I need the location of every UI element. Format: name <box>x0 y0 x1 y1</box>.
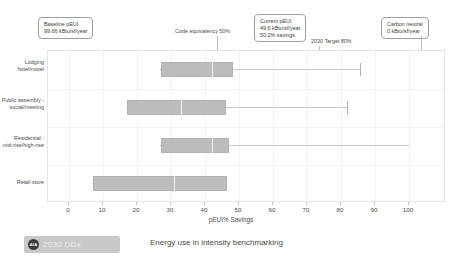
category-label-lodging: Lodging hotel/motel <box>0 59 44 73</box>
xtick-70 <box>306 202 307 205</box>
xtick-0 <box>68 202 69 205</box>
xticklabel-100: 100 <box>403 206 413 213</box>
category-label-residential: Residential - mid-rise/high-rise <box>0 135 44 149</box>
median-residential <box>212 138 213 153</box>
xtick-50 <box>238 202 239 205</box>
callout-current-line2: 49.6 kBtu/sf/year <box>260 25 300 32</box>
xticklabel-80: 80 <box>337 206 344 213</box>
figure-caption: Energy use in intensity benchmarking <box>150 238 400 247</box>
category-label-public-assembly-line2: social/meeting <box>10 104 44 110</box>
boxplot-row-residential <box>48 127 444 165</box>
category-label-retail-line1: Retail store <box>17 179 44 185</box>
annotation-code-equivalency: Code equivalency 50% <box>175 28 230 34</box>
callout-current-line3: 50.2% savings <box>260 32 300 39</box>
xtick-60 <box>272 202 273 205</box>
xticklabel-10: 10 <box>99 206 106 213</box>
median-retail <box>174 176 175 191</box>
xticklabel-70: 70 <box>303 206 310 213</box>
box-lodging <box>161 62 233 77</box>
xticklabel-60: 60 <box>269 206 276 213</box>
category-label-retail: Retail store <box>0 179 44 186</box>
xtick-80 <box>340 202 341 205</box>
annotation-2030-target: 2030 Target 80% <box>311 38 352 44</box>
xticklabel-40: 40 <box>201 206 208 213</box>
box-retail <box>93 176 227 191</box>
callout-current-line1: Current pEUI <box>260 18 300 25</box>
callout-carbon-line2: 0 kBtu/sf/year <box>387 28 423 35</box>
category-label-public-assembly-line1: Public assembly - <box>2 97 44 103</box>
aia-logo-icon: AIA <box>28 239 39 250</box>
xtick-10 <box>102 202 103 205</box>
xtick-40 <box>204 202 205 205</box>
aia-2030-ddx-badge[interactable]: AIA 2030 DDx <box>24 236 120 253</box>
xtick-100 <box>408 202 409 205</box>
callout-baseline-line2: 99.66 kBtu/sf/year <box>44 28 87 35</box>
x-axis-title: pEUI% Savings <box>0 216 462 223</box>
xticklabel-90: 90 <box>371 206 378 213</box>
callout-baseline-line1: Baseline pEUI <box>44 21 87 28</box>
boxplot-row-public-assembly <box>48 89 444 127</box>
xtick-30 <box>170 202 171 205</box>
xtick-20 <box>136 202 137 205</box>
xticklabel-0: 0 <box>66 206 69 213</box>
whisker-cap-lodging <box>360 63 361 76</box>
xticklabel-50: 50 <box>235 206 242 213</box>
callout-baseline-peui: Baseline pEUI 99.66 kBtu/sf/year <box>38 17 93 39</box>
category-label-lodging-line1: Lodging <box>25 59 44 65</box>
whisker-cap-public-assembly <box>347 101 348 114</box>
xticklabel-20: 20 <box>133 206 140 213</box>
boxplot-row-retail <box>48 165 444 203</box>
category-label-lodging-line2: hotel/motel <box>18 66 44 72</box>
median-public-assembly <box>181 100 182 115</box>
xtick-90 <box>374 202 375 205</box>
xticklabel-30: 30 <box>167 206 174 213</box>
median-lodging <box>212 62 213 77</box>
callout-current-peui: Current pEUI 49.6 kBtu/sf/year 50.2% sav… <box>254 14 306 42</box>
badge-label: 2030 DDx <box>43 240 81 249</box>
callout-carbon-line1: Carbon neutral <box>387 21 423 28</box>
box-residential <box>161 138 229 153</box>
boxplot-row-lodging <box>48 51 444 89</box>
box-public-assembly <box>127 100 226 115</box>
category-label-public-assembly: Public assembly - social/meeting <box>0 97 44 111</box>
plot-area <box>47 50 445 202</box>
category-label-residential-line1: Residential - <box>14 135 44 141</box>
chart-figure: Baseline pEUI 99.66 kBtu/sf/year Current… <box>0 0 462 266</box>
category-label-residential-line2: mid-rise/high-rise <box>3 142 44 148</box>
